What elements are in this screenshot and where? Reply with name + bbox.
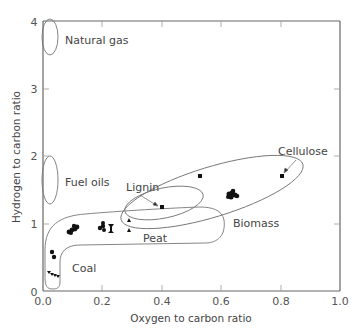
natural-gas-region (42, 19, 58, 55)
region-outlines (42, 19, 310, 289)
x-axis-title: Oxygen to carbon ratio (130, 312, 252, 324)
x-tick-1: 0.2 (93, 295, 111, 308)
coal-cluster-1 (67, 224, 80, 235)
y-tick-2: 2 (31, 150, 38, 163)
label-cellulose: Cellulose (278, 145, 328, 158)
x-tick-3: 0.6 (212, 295, 230, 308)
biomass-cluster (226, 189, 239, 200)
x-tick-5: 1.0 (331, 295, 349, 308)
region-labels: Natural gas Fuel oils Lignin Cellulose P… (65, 34, 328, 275)
coal-cluster-2 (98, 221, 106, 232)
fuel-oils-region (42, 156, 58, 204)
label-biomass: Biomass (233, 217, 280, 230)
x-tick-labels: 0.0 0.2 0.4 0.6 0.8 1.0 (34, 295, 349, 308)
y-tick-4: 4 (31, 16, 38, 29)
annotation-arrows (140, 160, 296, 206)
y-tick-3: 3 (31, 83, 38, 96)
x-tick-4: 0.8 (272, 295, 290, 308)
y-axis-title: Hydrogen to carbon ratio (10, 91, 22, 223)
label-fuel-oils: Fuel oils (65, 176, 110, 189)
y-tick-0: 0 (31, 286, 38, 299)
label-coal: Coal (72, 262, 96, 275)
label-natural-gas: Natural gas (65, 34, 129, 47)
label-peat: Peat (143, 232, 168, 245)
label-lignin: Lignin (126, 181, 159, 194)
coal-triangles (47, 271, 60, 278)
peat-hourglass (108, 224, 114, 233)
coal-peat-region (45, 207, 224, 289)
y-tick-1: 1 (31, 218, 38, 231)
y-tick-labels: 0 1 2 3 4 (31, 16, 38, 299)
x-tick-2: 0.4 (153, 295, 171, 308)
van-krevelen-chart: 0.0 0.2 0.4 0.6 0.8 1.0 0 1 2 3 4 Oxygen… (0, 0, 356, 333)
